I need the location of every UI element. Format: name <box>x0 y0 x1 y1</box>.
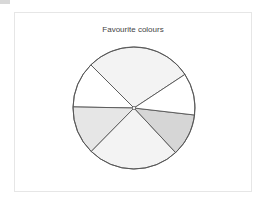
pie-center-marker <box>132 106 135 109</box>
pie-chart <box>0 0 265 201</box>
